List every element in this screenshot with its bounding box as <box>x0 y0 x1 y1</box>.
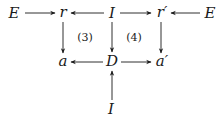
node-a-prime: a′ <box>156 54 168 69</box>
node-I-bottom: I <box>108 102 114 117</box>
node-r: r <box>59 5 66 20</box>
region-label-3: (3) <box>77 32 93 43</box>
node-r-prime: r′ <box>157 5 168 20</box>
node-D: D <box>106 54 118 69</box>
node-E-right: E <box>205 6 216 21</box>
node-E-left: E <box>9 6 20 21</box>
region-label-4: (4) <box>126 32 142 43</box>
node-a: a <box>59 54 68 69</box>
node-I-top: I <box>109 6 115 21</box>
